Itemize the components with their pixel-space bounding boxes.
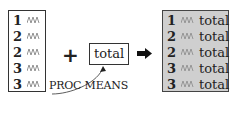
squiggle-icon	[181, 80, 195, 88]
row-id: 2	[167, 29, 177, 44]
input-row: 2	[13, 44, 41, 60]
input-row: 3	[13, 76, 41, 92]
squiggle-icon	[181, 16, 195, 24]
squiggle-icon	[27, 32, 41, 40]
row-id: 1	[167, 13, 177, 28]
total-value: total	[199, 61, 229, 76]
output-row: 2total	[167, 28, 229, 44]
output-row: 1total	[167, 12, 229, 28]
row-id: 3	[167, 61, 177, 76]
row-id: 3	[167, 77, 177, 92]
proc-means-label: PROC MEANS	[49, 79, 128, 92]
right-arrow-icon	[137, 48, 153, 60]
row-id: 3	[13, 61, 23, 76]
output-row: 3total	[167, 76, 229, 92]
total-value: total	[199, 45, 229, 60]
total-value: total	[199, 13, 229, 28]
output-row: 2total	[167, 44, 229, 60]
squiggle-icon	[181, 48, 195, 56]
squiggle-icon	[27, 48, 41, 56]
row-id: 3	[13, 77, 23, 92]
total-value: total	[199, 29, 229, 44]
row-id: 2	[13, 29, 23, 44]
input-row: 2	[13, 28, 41, 44]
squiggle-icon	[27, 80, 41, 88]
squiggle-icon	[181, 64, 195, 72]
total-value: total	[199, 77, 229, 92]
output-row: 3total	[167, 60, 229, 76]
input-row: 3	[13, 60, 41, 76]
squiggle-icon	[181, 32, 195, 40]
squiggle-icon	[27, 64, 41, 72]
row-id: 2	[167, 45, 177, 60]
row-id: 1	[13, 13, 23, 28]
output-table: 1total 2total 2total 3total 3total	[162, 10, 229, 92]
input-row: 1	[13, 12, 41, 28]
row-id: 2	[13, 45, 23, 60]
squiggle-icon	[27, 16, 41, 24]
